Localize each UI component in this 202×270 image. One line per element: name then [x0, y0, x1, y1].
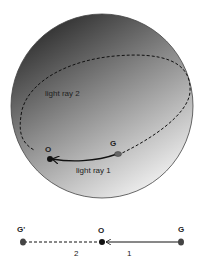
observer-dot-linear [99, 239, 105, 245]
light-ray-2-label: light ray 2 [45, 89, 80, 98]
image-galaxy-icon [20, 239, 26, 246]
image-label: G' [17, 225, 25, 234]
observer-label-linear: O [98, 226, 104, 235]
segment-2-label: 2 [74, 249, 79, 258]
observer-dot [47, 156, 53, 162]
linear-diagram: G' O G 2 1 [17, 225, 184, 258]
light-ray-1-label: light ray 1 [76, 166, 111, 175]
observer-label: O [45, 145, 51, 154]
galaxy-icon-linear [178, 239, 184, 246]
galaxy-label-linear: G [178, 225, 184, 234]
diagram-canvas: O G light ray 1 light ray 2 G' O G 2 1 [0, 0, 202, 270]
segment-1-label: 1 [127, 249, 132, 258]
galaxy-icon [115, 152, 122, 157]
sphere-diagram: O G light ray 1 light ray 2 [11, 14, 193, 198]
galaxy-label: G [110, 139, 116, 148]
